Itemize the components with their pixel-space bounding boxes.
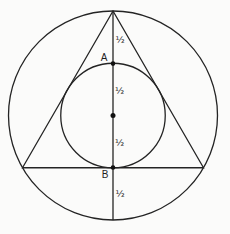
segment-label-apex-to-a: ½ [115,34,124,45]
diagram-canvas: A B ½ ½ ½ ½ [0,0,230,234]
center-dot [111,113,116,118]
point-b-label: B [102,169,109,180]
segment-label-b-to-bottom: ½ [115,188,124,199]
geometry-diagram: A B ½ ½ ½ ½ [0,0,230,234]
segment-label-center-to-b: ½ [115,137,124,148]
point-a-label: A [101,52,108,63]
segment-label-a-to-center: ½ [115,85,124,96]
point-a-dot [111,61,116,66]
point-b-dot [111,165,116,170]
